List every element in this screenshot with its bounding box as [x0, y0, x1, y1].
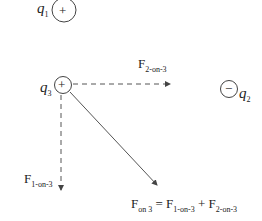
net-force-equation: Fon 3 = F1-on-3 + F2-on-3 — [131, 197, 237, 214]
q1-sign: + — [59, 4, 66, 17]
net-force-arrow — [70, 92, 157, 185]
q3-label: q3 — [40, 80, 52, 98]
q3-sign: + — [58, 78, 65, 91]
force-1-on-3-label: F1-on-3 — [24, 172, 53, 189]
q2-label: q2 — [239, 86, 251, 104]
force-2-on-3-label: F2-on-3 — [138, 57, 167, 74]
q2-sign: − — [225, 82, 232, 95]
q1-label: q1 — [37, 1, 49, 19]
